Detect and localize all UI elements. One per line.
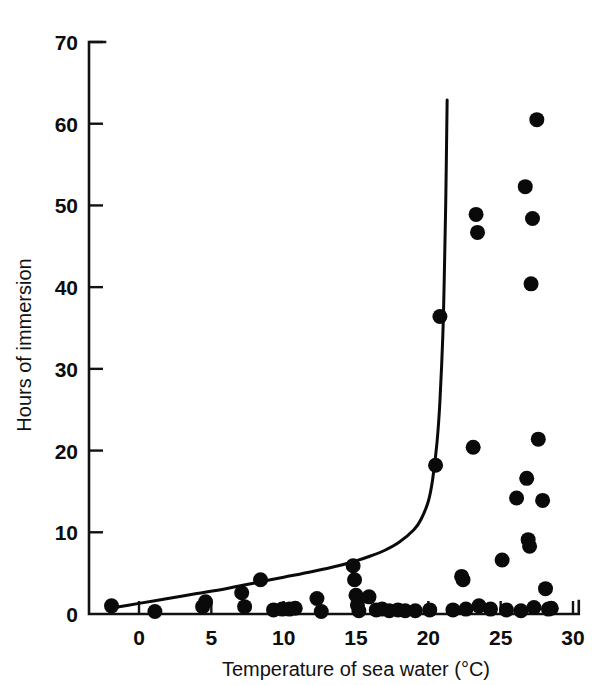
data-point bbox=[538, 581, 553, 596]
data-point bbox=[428, 458, 443, 473]
data-point bbox=[529, 112, 544, 127]
data-point bbox=[408, 603, 423, 618]
y-tick-label: 40 bbox=[55, 276, 78, 299]
data-points-group bbox=[104, 112, 559, 619]
x-axis-tick-labels: 051015202530 bbox=[133, 626, 585, 649]
data-point bbox=[234, 585, 249, 600]
data-point bbox=[445, 602, 460, 617]
data-point bbox=[346, 558, 361, 573]
y-axis-tick-marks bbox=[89, 42, 103, 532]
data-point bbox=[147, 604, 162, 619]
x-tick-label: 20 bbox=[417, 626, 440, 649]
data-point bbox=[513, 603, 528, 618]
data-point bbox=[525, 211, 540, 226]
x-tick-label: 15 bbox=[344, 626, 368, 649]
data-point bbox=[456, 572, 471, 587]
data-point bbox=[104, 598, 119, 613]
data-point bbox=[518, 179, 533, 194]
x-tick-label: 0 bbox=[133, 626, 145, 649]
x-axis-title: Temperature of sea water (°C) bbox=[222, 658, 490, 680]
data-point bbox=[309, 591, 324, 606]
data-point bbox=[198, 594, 213, 609]
data-point bbox=[544, 601, 559, 616]
data-point bbox=[531, 432, 546, 447]
data-point bbox=[253, 572, 268, 587]
x-tick-label: 30 bbox=[561, 626, 584, 649]
plot-canvas: 051015202530 010203040506070 Temperature… bbox=[0, 0, 610, 685]
axes-group bbox=[89, 42, 579, 614]
x-tick-label: 10 bbox=[272, 626, 295, 649]
data-point bbox=[288, 601, 303, 616]
x-tick-label: 25 bbox=[489, 626, 513, 649]
y-tick-label: 60 bbox=[55, 113, 78, 136]
data-point bbox=[522, 539, 537, 554]
data-point bbox=[495, 553, 510, 568]
data-point bbox=[483, 602, 498, 617]
data-point bbox=[509, 490, 524, 505]
data-point bbox=[347, 572, 362, 587]
data-point bbox=[535, 493, 550, 508]
y-tick-label: 50 bbox=[55, 194, 78, 217]
data-point bbox=[314, 604, 329, 619]
data-point bbox=[237, 599, 252, 614]
scatter-plot-figure: 051015202530 010203040506070 Temperature… bbox=[0, 0, 610, 685]
data-point bbox=[499, 602, 514, 617]
y-axis-tick-labels: 010203040506070 bbox=[55, 31, 78, 626]
x-tick-label: 5 bbox=[205, 626, 217, 649]
data-point bbox=[526, 600, 541, 615]
y-tick-label: 70 bbox=[55, 31, 78, 54]
data-point bbox=[524, 276, 539, 291]
data-point bbox=[422, 602, 437, 617]
y-axis-title: Hours of immersion bbox=[13, 258, 35, 431]
data-point bbox=[432, 309, 447, 324]
y-tick-label: 20 bbox=[55, 440, 78, 463]
y-tick-label: 0 bbox=[66, 603, 78, 626]
data-point bbox=[458, 602, 473, 617]
data-point bbox=[351, 603, 366, 618]
data-point bbox=[466, 440, 481, 455]
data-point bbox=[362, 589, 377, 604]
data-point bbox=[519, 471, 534, 486]
fitted-curve-line bbox=[110, 100, 447, 608]
data-point bbox=[470, 225, 485, 240]
y-tick-label: 10 bbox=[55, 521, 78, 544]
axis-lines bbox=[89, 42, 579, 614]
data-point bbox=[469, 207, 484, 222]
y-tick-label: 30 bbox=[55, 358, 78, 381]
